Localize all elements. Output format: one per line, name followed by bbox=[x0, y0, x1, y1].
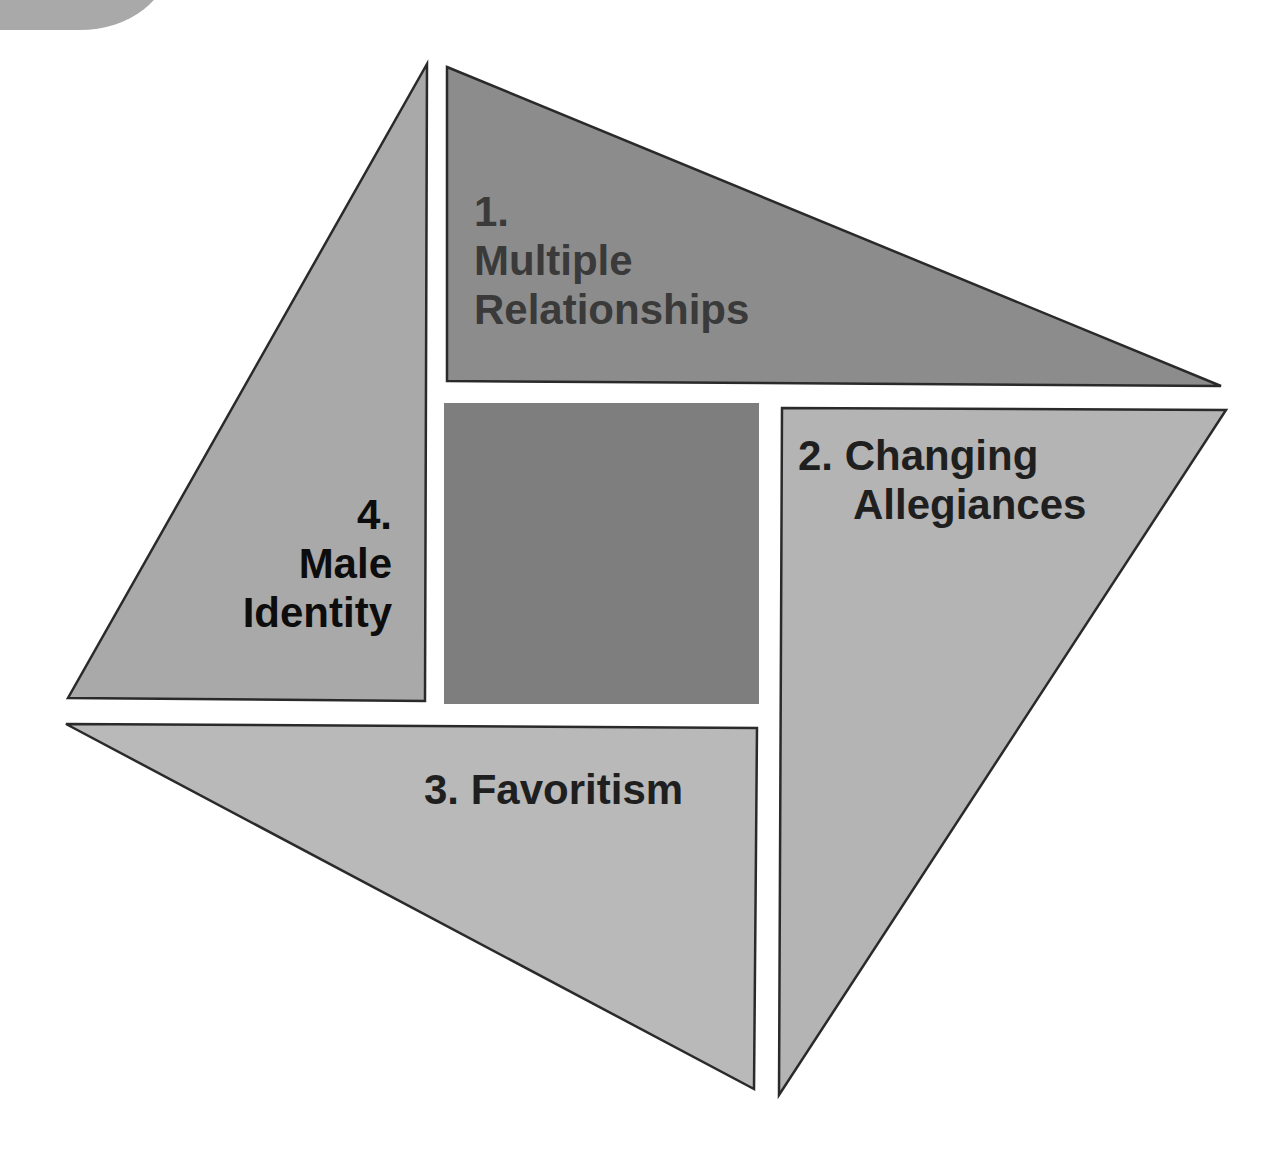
segment-4-title-line2: Identity bbox=[210, 588, 392, 637]
segment-1-title-line2: Relationships bbox=[474, 285, 749, 334]
segment-3-label: 3. Favoritism bbox=[424, 765, 683, 814]
segment-4-title-line1: Male bbox=[210, 539, 392, 588]
segment-2-title-line2: Allegiances bbox=[798, 480, 1086, 529]
segment-3-title: 3. Favoritism bbox=[424, 765, 683, 814]
segment-2-title-line1: 2. Changing bbox=[798, 431, 1086, 480]
segment-4-label: 4. Male Identity bbox=[210, 490, 392, 637]
segment-4-number: 4. bbox=[210, 490, 392, 539]
segment-1-label: 1. Multiple Relationships bbox=[474, 187, 749, 334]
segment-1-number: 1. bbox=[474, 187, 749, 236]
segment-2-label: 2. Changing Allegiances bbox=[798, 431, 1086, 529]
segment-1-title-line1: Multiple bbox=[474, 236, 749, 285]
center-square bbox=[444, 403, 759, 704]
four-part-diagram bbox=[0, 0, 1272, 1149]
